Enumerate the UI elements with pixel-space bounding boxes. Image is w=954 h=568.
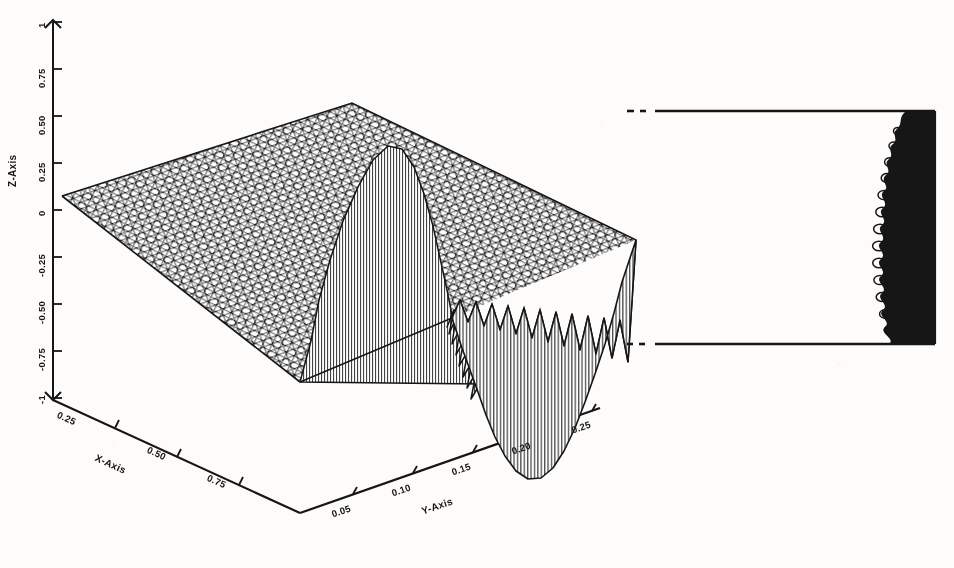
contour-plot [627, 111, 935, 344]
z-axis-label: Z-Axis [7, 155, 18, 187]
z-tick-label: -0.75 [36, 348, 47, 371]
z-tick-label: -0.50 [36, 301, 47, 324]
figure-svg [0, 0, 954, 568]
z-tick-label: 0.50 [36, 115, 47, 135]
z-tick-label: 0.75 [36, 68, 47, 88]
z-axis [45, 20, 62, 400]
contour-density-band [873, 112, 934, 343]
x-axis [53, 400, 300, 513]
z-tick-label: -1 [36, 395, 47, 404]
z-tick-label: 0 [36, 210, 47, 216]
z-tick-label: 1 [36, 22, 47, 28]
z-tick-label: -0.25 [36, 254, 47, 277]
z-tick-label: 0.25 [36, 162, 47, 182]
surface-plot [45, 20, 640, 513]
figure-canvas: Z-Axis 1 0.75 0.50 0.25 0 -0.25 -0.50 -0… [0, 0, 954, 568]
